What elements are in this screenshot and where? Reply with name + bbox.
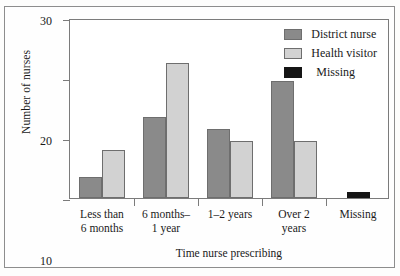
x-category-label: Missing xyxy=(326,208,390,222)
legend-item: Health visitor xyxy=(284,47,377,60)
x-axis-title: Time nurse prescribing xyxy=(69,247,389,259)
x-tick xyxy=(198,198,199,206)
y-tick: 10 xyxy=(63,140,70,141)
legend: District nurse Health visitor Missing xyxy=(284,28,377,79)
x-tick xyxy=(262,198,263,206)
y-tick-label: 30 xyxy=(40,14,52,29)
legend-label: District nurse xyxy=(311,27,376,42)
bar xyxy=(207,129,230,198)
bar xyxy=(347,192,370,198)
bar xyxy=(79,177,102,198)
legend-swatch-district-nurse xyxy=(284,29,302,40)
y-tick: 30 xyxy=(63,20,70,21)
x-category-label: Over 2 years xyxy=(262,208,326,235)
y-axis-title: Number of nurses xyxy=(20,22,32,162)
legend-swatch-missing xyxy=(284,67,302,78)
legend-item: Missing xyxy=(284,66,377,79)
bar xyxy=(143,117,166,198)
bar xyxy=(271,81,294,198)
legend-item: District nurse xyxy=(284,28,377,41)
y-tick: 20 xyxy=(63,80,70,81)
plot-area: 0102030 Less than 6 months6 months– 1 ye… xyxy=(69,19,389,199)
x-category-label: Less than 6 months xyxy=(70,208,134,235)
bar xyxy=(294,141,317,198)
x-category-label: 1–2 years xyxy=(198,208,262,222)
y-tick-label: 20 xyxy=(40,134,52,149)
x-tick xyxy=(326,198,327,206)
y-tick-label: 10 xyxy=(40,254,52,269)
x-tick xyxy=(134,198,135,206)
legend-label: Health visitor xyxy=(311,46,377,61)
figure: Number of nurses 0102030 Less than 6 mon… xyxy=(0,0,400,276)
bar xyxy=(102,150,125,198)
bar xyxy=(230,141,253,198)
legend-swatch-health-visitor xyxy=(284,48,302,59)
bar xyxy=(166,63,189,198)
legend-label: Missing xyxy=(316,65,355,80)
x-category-label: 6 months– 1 year xyxy=(134,208,198,235)
y-tick: 0 xyxy=(63,200,70,201)
